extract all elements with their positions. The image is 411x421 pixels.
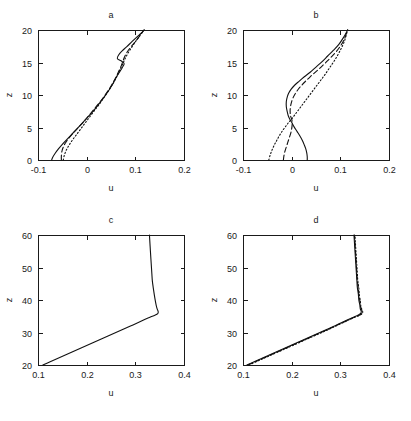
panel-a: a-0.100.10.205101520uz xyxy=(0,0,206,216)
panel-d: d0.10.20.30.42030405060uz xyxy=(205,205,411,421)
y-ticklabel-d: 30 xyxy=(227,329,237,339)
y-ticklabel-b: 10 xyxy=(227,91,237,101)
axes-box-c xyxy=(39,236,185,366)
x-axis-label-c: u xyxy=(108,388,113,398)
y-axis-label-a: z xyxy=(4,92,14,97)
x-ticklabel-b: 0 xyxy=(290,165,295,175)
x-ticklabel-d: 0.2 xyxy=(286,370,299,380)
panel-b: b-0.100.10.205101520uz xyxy=(205,0,411,216)
curve-d-dotted xyxy=(249,235,363,365)
y-ticklabel-c: 60 xyxy=(22,231,32,241)
x-ticklabel-d: 0.3 xyxy=(334,370,347,380)
y-ticklabel-d: 50 xyxy=(227,264,237,274)
x-axis-label-a: u xyxy=(108,183,113,193)
x-ticklabel-a: -0.1 xyxy=(31,165,47,175)
x-ticklabel-a: 0.2 xyxy=(178,165,191,175)
y-axis-label-c: z xyxy=(4,297,14,302)
y-ticklabel-c: 30 xyxy=(22,329,32,339)
plot-d: d0.10.20.30.42030405060uz xyxy=(205,205,411,421)
x-ticklabel-c: 0.3 xyxy=(129,370,142,380)
panel-title-b: b xyxy=(313,10,318,20)
x-ticklabel-b: -0.1 xyxy=(236,165,252,175)
x-ticklabel-b: 0.2 xyxy=(383,165,396,175)
y-ticklabel-b: 0 xyxy=(232,156,237,166)
plot-a: a-0.100.10.205101520uz xyxy=(0,0,206,216)
curve-b-dotted xyxy=(269,30,348,160)
y-ticklabel-b: 15 xyxy=(227,59,237,69)
y-axis-label-d: z xyxy=(209,297,219,302)
y-ticklabel-c: 20 xyxy=(22,361,32,371)
plot-c: c0.10.20.30.42030405060uz xyxy=(0,205,206,421)
y-ticklabel-a: 5 xyxy=(27,124,32,134)
panel-title-c: c xyxy=(109,215,114,225)
curve-c-solid xyxy=(43,235,158,365)
y-ticklabel-d: 40 xyxy=(227,296,237,306)
axes-box-b xyxy=(244,31,390,161)
y-ticklabel-a: 0 xyxy=(27,156,32,166)
x-ticklabel-c: 0.1 xyxy=(32,370,45,380)
curve-a-dashed xyxy=(61,30,144,160)
curve-d-dashed xyxy=(248,235,362,365)
y-axis-label-b: z xyxy=(209,92,219,97)
y-ticklabel-a: 15 xyxy=(22,59,32,69)
y-ticklabel-b: 20 xyxy=(227,26,237,36)
curve-d-solid xyxy=(247,235,361,365)
y-ticklabel-a: 10 xyxy=(22,91,32,101)
x-ticklabel-c: 0.4 xyxy=(178,370,191,380)
curve-a-dotted xyxy=(63,30,144,160)
x-axis-label-d: u xyxy=(313,388,318,398)
x-ticklabel-d: 0.1 xyxy=(237,370,250,380)
axes-box-a xyxy=(39,31,185,161)
figure-canvas: a-0.100.10.205101520uz b-0.100.10.205101… xyxy=(0,0,411,421)
y-ticklabel-b: 5 xyxy=(232,124,237,134)
x-ticklabel-b: 0.1 xyxy=(334,165,347,175)
x-ticklabel-d: 0.4 xyxy=(383,370,396,380)
y-ticklabel-c: 50 xyxy=(22,264,32,274)
x-ticklabel-a: 0 xyxy=(85,165,90,175)
axes-box-d xyxy=(244,236,390,366)
y-ticklabel-d: 20 xyxy=(227,361,237,371)
panel-title-d: d xyxy=(313,215,318,225)
panel-title-a: a xyxy=(108,10,113,20)
plot-b: b-0.100.10.205101520uz xyxy=(205,0,411,216)
x-ticklabel-c: 0.2 xyxy=(81,370,94,380)
curve-b-dashed xyxy=(283,30,347,160)
x-axis-label-b: u xyxy=(313,183,318,193)
y-ticklabel-a: 20 xyxy=(22,26,32,36)
panel-c: c0.10.20.30.42030405060uz xyxy=(0,205,206,421)
y-ticklabel-d: 60 xyxy=(227,231,237,241)
y-ticklabel-c: 40 xyxy=(22,296,32,306)
x-ticklabel-a: 0.1 xyxy=(129,165,142,175)
